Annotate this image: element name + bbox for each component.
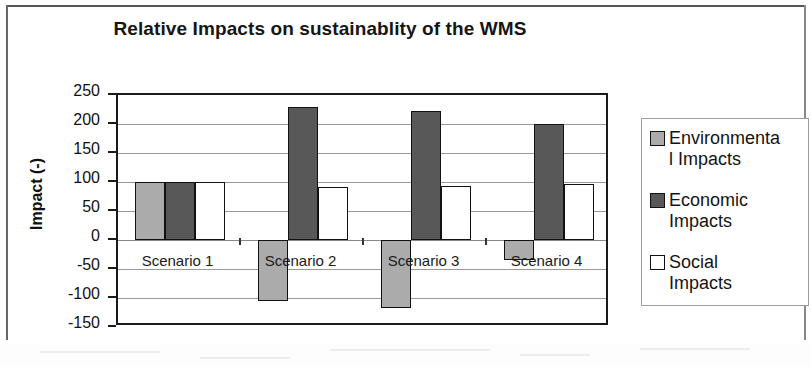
scan-speck <box>40 351 160 353</box>
legend-swatch-env-icon <box>650 131 665 146</box>
chart-title: Relative Impacts on sustainablity of the… <box>0 18 640 40</box>
gridline <box>118 298 606 299</box>
legend-entry-2[interactable]: Economic Impacts <box>650 190 809 232</box>
y-tick-label: 50 <box>52 198 100 216</box>
bar-scenario-3-economic-impacts[interactable] <box>411 111 441 240</box>
page-border-left <box>6 5 8 340</box>
bar-scenario-1-economic-impacts[interactable] <box>165 182 195 240</box>
y-tick-mark <box>108 325 116 327</box>
x-axis-label-1: Scenario 1 <box>116 252 239 269</box>
bar-scenario-2-social-impacts[interactable] <box>318 187 348 240</box>
y-tick-label: 200 <box>52 111 100 129</box>
y-tick-mark <box>108 238 116 240</box>
y-tick-label: 250 <box>52 82 100 100</box>
legend-label: Social Impacts <box>669 252 732 294</box>
x-tick-mark <box>362 238 364 245</box>
legend-label: Economic Impacts <box>669 190 748 232</box>
legend-entry-3[interactable]: Social Impacts <box>650 252 809 294</box>
y-tick-mark <box>108 180 116 182</box>
y-tick-label: 100 <box>52 169 100 187</box>
y-tick-mark <box>108 93 116 95</box>
y-tick-label: -100 <box>52 285 100 303</box>
bar-scenario-1-social-impacts[interactable] <box>195 182 225 240</box>
y-tick-mark <box>108 209 116 211</box>
scan-noise-band <box>0 343 811 367</box>
y-tick-mark <box>108 151 116 153</box>
scan-speck <box>330 349 490 351</box>
gridline <box>118 269 606 270</box>
x-axis-label-4: Scenario 4 <box>485 252 608 269</box>
scan-speck <box>200 357 290 359</box>
y-tick-label: 150 <box>52 140 100 158</box>
scan-speck <box>640 348 750 350</box>
y-tick-mark <box>108 267 116 269</box>
bar-scenario-4-social-impacts[interactable] <box>564 184 594 240</box>
x-axis-label-2: Scenario 2 <box>239 252 362 269</box>
legend-entry-1[interactable]: Environmenta l Impacts <box>650 128 809 170</box>
bar-scenario-2-economic-impacts[interactable] <box>288 107 318 240</box>
y-tick-mark <box>108 296 116 298</box>
y-tick-label: 0 <box>52 227 100 245</box>
y-tick-label: -50 <box>52 256 100 274</box>
page-border-top <box>6 5 806 7</box>
y-tick-mark <box>108 122 116 124</box>
y-axis-title: Impact (-) <box>28 124 46 264</box>
plot-inner <box>118 95 606 323</box>
scanned-page: Relative Impacts on sustainablity of the… <box>0 0 811 367</box>
x-tick-mark <box>485 238 487 245</box>
legend-swatch-econ-icon <box>650 193 665 208</box>
legend-swatch-soc-icon <box>650 255 665 270</box>
chart-legend: Environmenta l ImpactsEconomic ImpactsSo… <box>641 118 809 306</box>
plot-area <box>116 93 608 325</box>
bar-scenario-2-environmental-impacts[interactable] <box>258 240 288 301</box>
bar-scenario-1-environmental-impacts[interactable] <box>135 182 165 240</box>
scan-speck <box>520 354 590 356</box>
bar-scenario-3-social-impacts[interactable] <box>441 186 471 240</box>
bar-scenario-4-economic-impacts[interactable] <box>534 124 564 240</box>
legend-label: Environmenta l Impacts <box>669 128 780 170</box>
y-tick-label: -150 <box>52 314 100 332</box>
x-axis-label-3: Scenario 3 <box>362 252 485 269</box>
bar-scenario-3-environmental-impacts[interactable] <box>381 240 411 308</box>
x-tick-mark <box>239 238 241 245</box>
